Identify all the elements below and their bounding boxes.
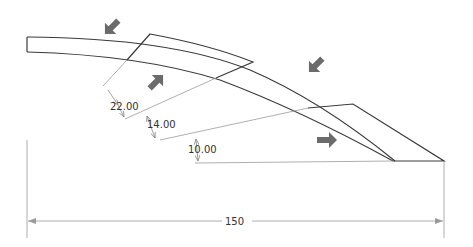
strip-upper-edge — [27, 37, 395, 161]
force-arrow-top-right — [303, 53, 328, 78]
dim-label-22: 22.00 — [110, 101, 139, 112]
force-arrow-right — [317, 132, 337, 148]
drawing-canvas: 22.00 14.00 10.00 150 — [0, 0, 473, 247]
ref-line-1 — [103, 60, 127, 86]
dim-label-150: 150 — [225, 216, 244, 227]
overall-dimension: 150 — [28, 216, 443, 227]
force-arrow-mid-left — [144, 69, 169, 94]
dim-label-10: 10.00 — [188, 144, 217, 155]
dim-label-14: 14.00 — [147, 119, 176, 130]
ref-line-4 — [195, 161, 393, 163]
panels — [127, 34, 444, 161]
curved-strip — [27, 37, 395, 161]
ref-line-2 — [125, 78, 216, 119]
force-arrow-top-left — [99, 15, 124, 40]
reference-lines — [27, 60, 444, 238]
ref-line-3 — [160, 108, 308, 140]
